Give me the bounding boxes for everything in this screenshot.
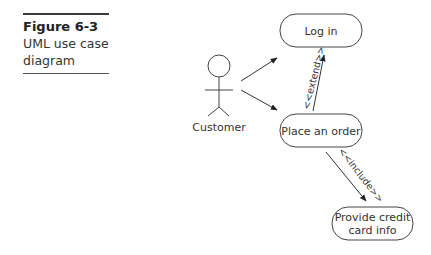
use-case-credit-card-label-line1: Provide credit	[335, 211, 411, 224]
use-case-credit-card: Provide credit card info	[332, 207, 413, 240]
use-case-login-label: Log in	[304, 25, 337, 38]
use-case-login: Log in	[280, 14, 362, 47]
actor-customer: Customer	[192, 55, 246, 134]
association-arrow-login	[241, 58, 277, 81]
extend-label: <<extend>>	[300, 45, 326, 111]
use-case-diagram: Customer Log in Place an order Provide c…	[0, 0, 431, 255]
use-case-credit-card-label-line2: card info	[348, 224, 396, 237]
actor-label: Customer	[192, 121, 246, 134]
association-arrow-order	[241, 90, 277, 110]
use-case-place-order: Place an order	[280, 114, 362, 147]
use-case-place-order-label: Place an order	[281, 125, 361, 138]
stick-figure-icon	[205, 55, 233, 116]
